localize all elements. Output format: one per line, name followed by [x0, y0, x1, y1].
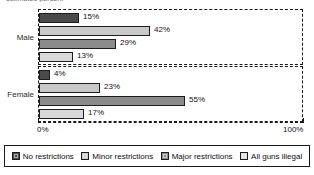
bar-label: 23% [104, 82, 120, 92]
legend-swatch-icon [81, 152, 89, 160]
category-label-male: Male [0, 33, 34, 42]
category-label-female: Female [0, 90, 34, 99]
legend-item-label: No restrictions [23, 152, 74, 161]
group-box-female: 4% 23% 55% 17% [38, 66, 303, 122]
chart-title: estimated percent [6, 0, 63, 2]
bar-male-major-restrictions [39, 39, 116, 49]
bar-label: 42% [154, 25, 170, 35]
bar-label: 29% [120, 38, 136, 48]
legend: No restrictions Minor restrictions Major… [4, 145, 310, 167]
axis-tick-label-min: 0% [37, 125, 49, 134]
bar-female-minor-restrictions [39, 83, 100, 93]
bar-female-no-restrictions [39, 70, 50, 80]
legend-item-major-restrictions[interactable]: Major restrictions [161, 152, 233, 161]
axis-tick-label-max: 100% [283, 125, 303, 134]
bar-label: 17% [88, 108, 104, 118]
bar-label: 55% [189, 95, 205, 105]
legend-item-label: All guns illegal [251, 152, 302, 161]
legend-item-no-restrictions[interactable]: No restrictions [12, 152, 74, 161]
axis-tick-min [38, 118, 39, 123]
legend-item-label: Major restrictions [172, 152, 233, 161]
bar-label: 4% [54, 69, 66, 79]
legend-swatch-icon [12, 152, 20, 160]
x-axis-line [38, 122, 303, 123]
legend-swatch-icon [161, 152, 169, 160]
plot-area: 15% 42% 29% 13% 4% 23% 55% 17% [38, 9, 303, 122]
bar-male-all-guns-illegal [39, 52, 73, 62]
legend-item-label: Minor restrictions [92, 152, 153, 161]
bar-male-no-restrictions [39, 13, 79, 23]
bar-male-minor-restrictions [39, 26, 150, 36]
group-box-male: 15% 42% 29% 13% [38, 9, 303, 65]
legend-item-minor-restrictions[interactable]: Minor restrictions [81, 152, 153, 161]
bar-label: 15% [83, 12, 99, 22]
bar-female-major-restrictions [39, 96, 185, 106]
legend-item-all-guns-illegal[interactable]: All guns illegal [240, 152, 302, 161]
bar-label: 13% [77, 51, 93, 61]
bar-female-all-guns-illegal [39, 109, 84, 119]
axis-tick-max [303, 118, 304, 123]
legend-swatch-icon [240, 152, 248, 160]
